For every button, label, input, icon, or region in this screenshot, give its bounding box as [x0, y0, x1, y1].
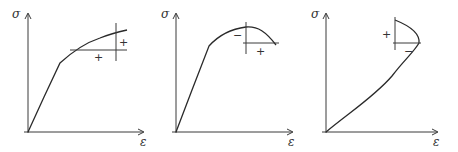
panel-softening: σ ε − + [150, 0, 305, 152]
stress-strain-plot-snap-back: σ ε + − [300, 0, 458, 152]
stress-strain-plot-softening: σ ε − + [150, 0, 305, 152]
x-axis-label: ε [140, 135, 146, 149]
axes [322, 13, 438, 135]
stress-strain-curve [326, 20, 419, 132]
y-axis-label: σ [12, 7, 21, 21]
panel-snap-back: σ ε + − [300, 0, 458, 152]
stress-strain-curve [28, 30, 127, 132]
y-axis-label: σ [161, 7, 170, 21]
sign-vertical: + [119, 36, 128, 49]
sign-minus: − [233, 29, 242, 42]
panel-hardening: σ ε + + [0, 0, 152, 152]
sign-plus: + [382, 28, 391, 41]
sign-plus: + [256, 45, 265, 58]
axes [24, 13, 144, 135]
stress-strain-plot-hardening: σ ε + + [0, 0, 152, 152]
x-axis-label: ε [433, 135, 439, 149]
y-axis-label: σ [311, 7, 320, 21]
sign-minus: − [404, 45, 413, 58]
x-axis-label: ε [288, 135, 294, 149]
sign-horizontal: + [94, 51, 103, 64]
